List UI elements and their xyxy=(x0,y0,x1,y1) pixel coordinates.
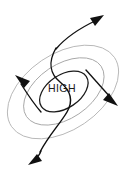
wind-arrow-lower-left xyxy=(28,151,42,165)
wind-arrow-lower-right xyxy=(86,70,118,106)
arrowhead-upper-right xyxy=(90,15,104,26)
high-pressure-label: HIGH xyxy=(48,82,76,94)
pressure-system-canvas: HIGH xyxy=(0,0,130,180)
pressure-system-diagram: HIGH xyxy=(0,0,130,180)
wind-arrow-upper-right xyxy=(56,15,104,49)
wind-arrow-upper-left xyxy=(15,75,41,112)
arrowhead-lower-left xyxy=(28,154,42,165)
